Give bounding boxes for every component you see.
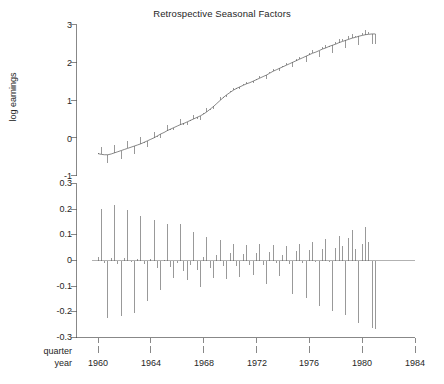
seasonal-panel-axes [71, 184, 416, 338]
trend-panel-axes [71, 25, 77, 176]
plot-canvas [0, 0, 444, 384]
chart-figure: Retrospective Seasonal Factors log earni… [0, 0, 444, 384]
trend-panel-series [98, 30, 375, 163]
trend-line [98, 34, 375, 155]
seasonal-panel-series [98, 205, 375, 329]
x-axis [76, 338, 415, 354]
